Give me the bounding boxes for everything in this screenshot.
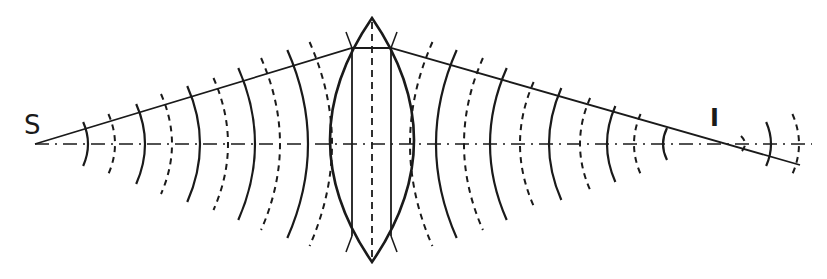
source-label: S	[24, 110, 41, 140]
lens-wavefront-diagram	[0, 0, 827, 279]
marginal-ray	[35, 48, 800, 165]
wavefront-trough	[161, 94, 172, 194]
lens-tick	[391, 32, 397, 48]
image-label: I	[710, 104, 719, 132]
lens-outline	[330, 18, 414, 262]
lens-tick	[391, 236, 397, 252]
ray-line	[35, 48, 800, 165]
lens-tick	[346, 236, 352, 252]
wavefront-crest	[187, 86, 200, 202]
lens-tick	[346, 32, 352, 48]
diverging-wavefronts	[741, 114, 799, 174]
convex-lens	[330, 18, 414, 262]
